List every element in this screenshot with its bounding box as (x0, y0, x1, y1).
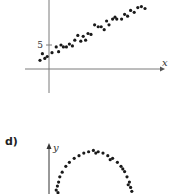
p1-point-9 (65, 45, 68, 48)
p1-point-19 (93, 23, 96, 26)
p2-point-24 (109, 158, 112, 161)
figure: 5 x d) y (0, 0, 179, 194)
p2-point-4 (61, 171, 64, 174)
panel1-y-tick-label: 5 (37, 40, 43, 50)
p1-point-18 (89, 33, 92, 36)
p1-point-4 (50, 51, 53, 54)
p2-point-26 (56, 191, 59, 194)
p2-point-27 (127, 183, 130, 186)
p2-point-0 (55, 188, 58, 191)
p2-point-7 (73, 157, 76, 160)
p1-point-22 (103, 28, 106, 31)
p1-point-10 (68, 42, 71, 45)
p1-point-28 (120, 17, 123, 20)
p2-point-17 (119, 165, 122, 168)
p1-point-27 (115, 17, 118, 20)
p2-point-1 (56, 184, 59, 187)
p2-point-8 (77, 154, 80, 157)
p2-point-3 (58, 175, 61, 178)
p1-point-3 (46, 55, 49, 58)
p1-point-35 (143, 7, 146, 10)
p1-point-6 (57, 50, 60, 53)
p2-point-19 (125, 175, 128, 178)
p1-point-12 (73, 39, 76, 42)
p2-point-10 (87, 150, 90, 153)
p2-point-6 (68, 161, 71, 164)
panel2-points (55, 149, 134, 194)
p2-point-25 (121, 167, 124, 170)
p2-point-13 (101, 151, 104, 154)
p2-point-22 (130, 190, 133, 193)
p2-point-23 (94, 151, 97, 154)
p2-point-14 (106, 154, 109, 157)
p1-point-1 (41, 52, 44, 55)
panel1-points (38, 5, 146, 62)
p1-point-20 (97, 25, 100, 28)
p1-point-31 (129, 9, 132, 12)
p2-point-5 (64, 165, 67, 168)
panel1-x-axis-label: x (162, 57, 168, 68)
panel2-label: d) (5, 135, 18, 148)
p2-point-21 (129, 186, 132, 189)
panel2-y-axis-label: y (52, 142, 59, 153)
p1-point-11 (71, 44, 74, 47)
p2-point-11 (92, 149, 95, 152)
p1-point-21 (100, 25, 103, 28)
p2-point-2 (57, 181, 60, 184)
p1-point-15 (82, 35, 85, 38)
p1-point-23 (105, 19, 108, 22)
p1-point-16 (84, 39, 87, 42)
p1-point-32 (133, 11, 136, 14)
p1-point-13 (76, 34, 79, 37)
p1-point-14 (79, 40, 82, 43)
p1-point-29 (123, 13, 126, 16)
p2-point-16 (116, 161, 119, 164)
p1-point-24 (107, 23, 110, 26)
p2-point-9 (82, 151, 85, 154)
p1-point-8 (62, 45, 65, 48)
p1-point-0 (38, 59, 41, 62)
p1-point-5 (55, 45, 58, 48)
panel2-y-axis-arrow (47, 143, 52, 149)
p1-point-17 (86, 32, 89, 35)
p1-point-33 (136, 6, 139, 9)
p2-point-18 (123, 170, 126, 173)
p1-point-34 (140, 5, 143, 8)
p1-point-30 (126, 15, 129, 18)
